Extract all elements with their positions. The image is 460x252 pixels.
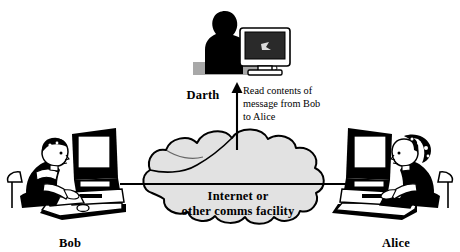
actor-label-bob: Bob	[59, 237, 81, 250]
attack-annotation: Read contents of message from Bob to Ali…	[243, 84, 320, 123]
cloud-label-line2: other comms facility	[182, 205, 295, 218]
bob-figure	[8, 128, 126, 220]
darth-figure	[193, 11, 290, 75]
security-attack-diagram: Bob Darth Alice Internet or other comms …	[0, 0, 460, 252]
actor-label-alice: Alice	[382, 237, 410, 250]
alice-figure	[332, 128, 452, 220]
actor-label-darth: Darth	[187, 89, 220, 102]
cloud-label-line1: Internet or	[208, 190, 269, 203]
